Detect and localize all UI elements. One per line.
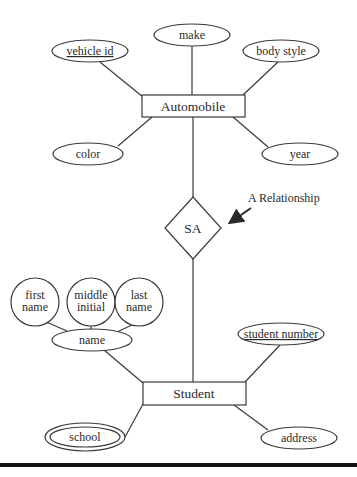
attribute-label: year xyxy=(290,147,311,161)
attribute-make: make xyxy=(154,24,230,46)
attribute-label-line2: initial xyxy=(77,300,106,314)
line-color xyxy=(118,117,152,146)
attribute-address: address xyxy=(261,427,337,449)
line-year xyxy=(233,117,268,147)
attribute-student-number: student number xyxy=(238,323,324,345)
line-body-style xyxy=(243,62,278,95)
attribute-label-line2: name xyxy=(126,300,152,314)
line-last-name xyxy=(117,325,132,332)
attribute-color: color xyxy=(53,143,123,165)
attribute-label-line2: name xyxy=(22,300,48,314)
line-vehicle-id xyxy=(100,62,143,97)
entity-automobile: Automobile xyxy=(142,95,245,117)
attribute-last-name: last name xyxy=(115,278,163,326)
entity-student: Student xyxy=(143,382,246,405)
line-school xyxy=(125,404,143,437)
relationship-label: SA xyxy=(184,221,202,236)
attribute-label: color xyxy=(76,147,101,161)
attribute-label: name xyxy=(79,333,105,347)
line-address xyxy=(234,405,268,430)
bottom-rule xyxy=(0,463,357,467)
annotation: A Relationship xyxy=(231,191,320,222)
relationship-sa: SA xyxy=(165,197,221,259)
attribute-year: year xyxy=(262,143,338,165)
attribute-middle-initial: middle initial xyxy=(67,278,115,326)
attribute-school: school xyxy=(45,423,125,451)
attribute-label: school xyxy=(69,430,101,444)
attribute-label: address xyxy=(281,431,317,445)
attribute-label: vehicle id xyxy=(67,44,114,58)
line-student-number xyxy=(245,345,280,382)
attribute-label: body style xyxy=(256,44,306,58)
er-diagram: vehicle id make body style color year Au… xyxy=(0,0,357,477)
attribute-body-style: body style xyxy=(243,40,319,62)
entity-label: Automobile xyxy=(161,99,226,114)
line-name xyxy=(104,350,143,383)
attribute-name: name xyxy=(52,329,132,351)
entity-label: Student xyxy=(173,386,215,401)
annotation-label: A Relationship xyxy=(248,191,320,205)
attribute-label: student number xyxy=(244,327,318,341)
attribute-label: make xyxy=(179,28,205,42)
arrow-icon xyxy=(231,208,251,222)
attribute-first-name: first name xyxy=(11,278,59,326)
attribute-vehicle-id: vehicle id xyxy=(52,40,128,62)
